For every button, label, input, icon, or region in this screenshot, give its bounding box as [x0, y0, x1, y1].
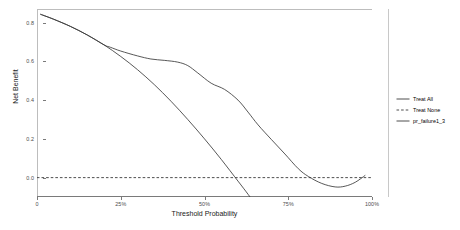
x-tick-label: 100%: [352, 201, 392, 207]
legend-line-icon: [396, 105, 410, 115]
x-tick-mark: [121, 197, 122, 200]
legend-item[interactable]: Treat None: [396, 104, 458, 115]
legend-line-icon: [396, 116, 410, 126]
x-tick-mark: [288, 197, 289, 200]
x-tick-label: 25%: [101, 201, 141, 207]
y-tick-label: 0.2: [14, 136, 34, 142]
y-axis-title: Net Benefit: [12, 42, 19, 132]
legend-item-label: Treat None: [413, 107, 440, 113]
x-tick-mark: [37, 197, 38, 200]
x-tick-label: 0: [17, 201, 57, 207]
legend: Treat AllTreat Nonepr_failure1_3: [396, 93, 458, 126]
legend-item-label: Treat All: [413, 96, 433, 102]
x-tick-label: 75%: [268, 201, 308, 207]
series-paths: [37, 9, 372, 197]
series-line-pr-failure1-3: [40, 14, 365, 187]
x-tick-mark: [372, 197, 373, 200]
net-benefit-chart: 0.00.20.40.60.8 025%50%75%100% Threshold…: [0, 0, 460, 230]
legend-line-icon: [396, 94, 410, 104]
y-tick-label: 0.0: [14, 175, 34, 181]
x-axis-title: Threshold Probability: [37, 210, 372, 217]
series-line-treat-all: [40, 14, 271, 227]
legend-item[interactable]: Treat All: [396, 93, 458, 104]
y-tick-label: 0.8: [14, 20, 34, 26]
legend-divider: [388, 9, 389, 197]
x-tick-mark: [205, 197, 206, 200]
legend-item[interactable]: pr_failure1_3: [396, 115, 458, 126]
x-tick-label: 50%: [185, 201, 225, 207]
plot-area: [37, 9, 372, 197]
legend-item-label: pr_failure1_3: [413, 118, 445, 124]
